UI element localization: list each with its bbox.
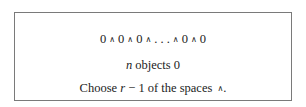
choose-suffix: − 1 of the spaces — [128, 81, 212, 95]
space-wedge-icon: ∧ — [109, 35, 115, 44]
choose-text: Choose — [80, 81, 118, 95]
objects-text: objects 0 — [135, 58, 180, 72]
space-wedge-icon: ∧ — [127, 35, 133, 44]
ellipsis: . . . — [154, 32, 170, 46]
zero: 0 — [136, 32, 142, 46]
space-wedge-icon: ∧ — [173, 35, 179, 44]
space-wedge-icon: ∧ — [191, 35, 197, 44]
variable-r: r — [120, 81, 125, 95]
variable-n: n — [126, 58, 132, 72]
zero: 0 — [118, 32, 124, 46]
period: . — [223, 81, 226, 95]
zero: 0 — [100, 32, 106, 46]
space-wedge-icon: ∧ — [145, 35, 151, 44]
choose-instruction: Choose r − 1 of the spaces ∧. — [15, 81, 291, 96]
figure-box: 0∧0∧0∧. . .∧0∧0 n objects 0 Choose r − 1… — [14, 12, 292, 101]
objects-sequence: 0∧0∧0∧. . .∧0∧0 — [15, 32, 291, 47]
zero: 0 — [200, 32, 206, 46]
zero: 0 — [182, 32, 188, 46]
objects-caption: n objects 0 — [15, 58, 291, 72]
